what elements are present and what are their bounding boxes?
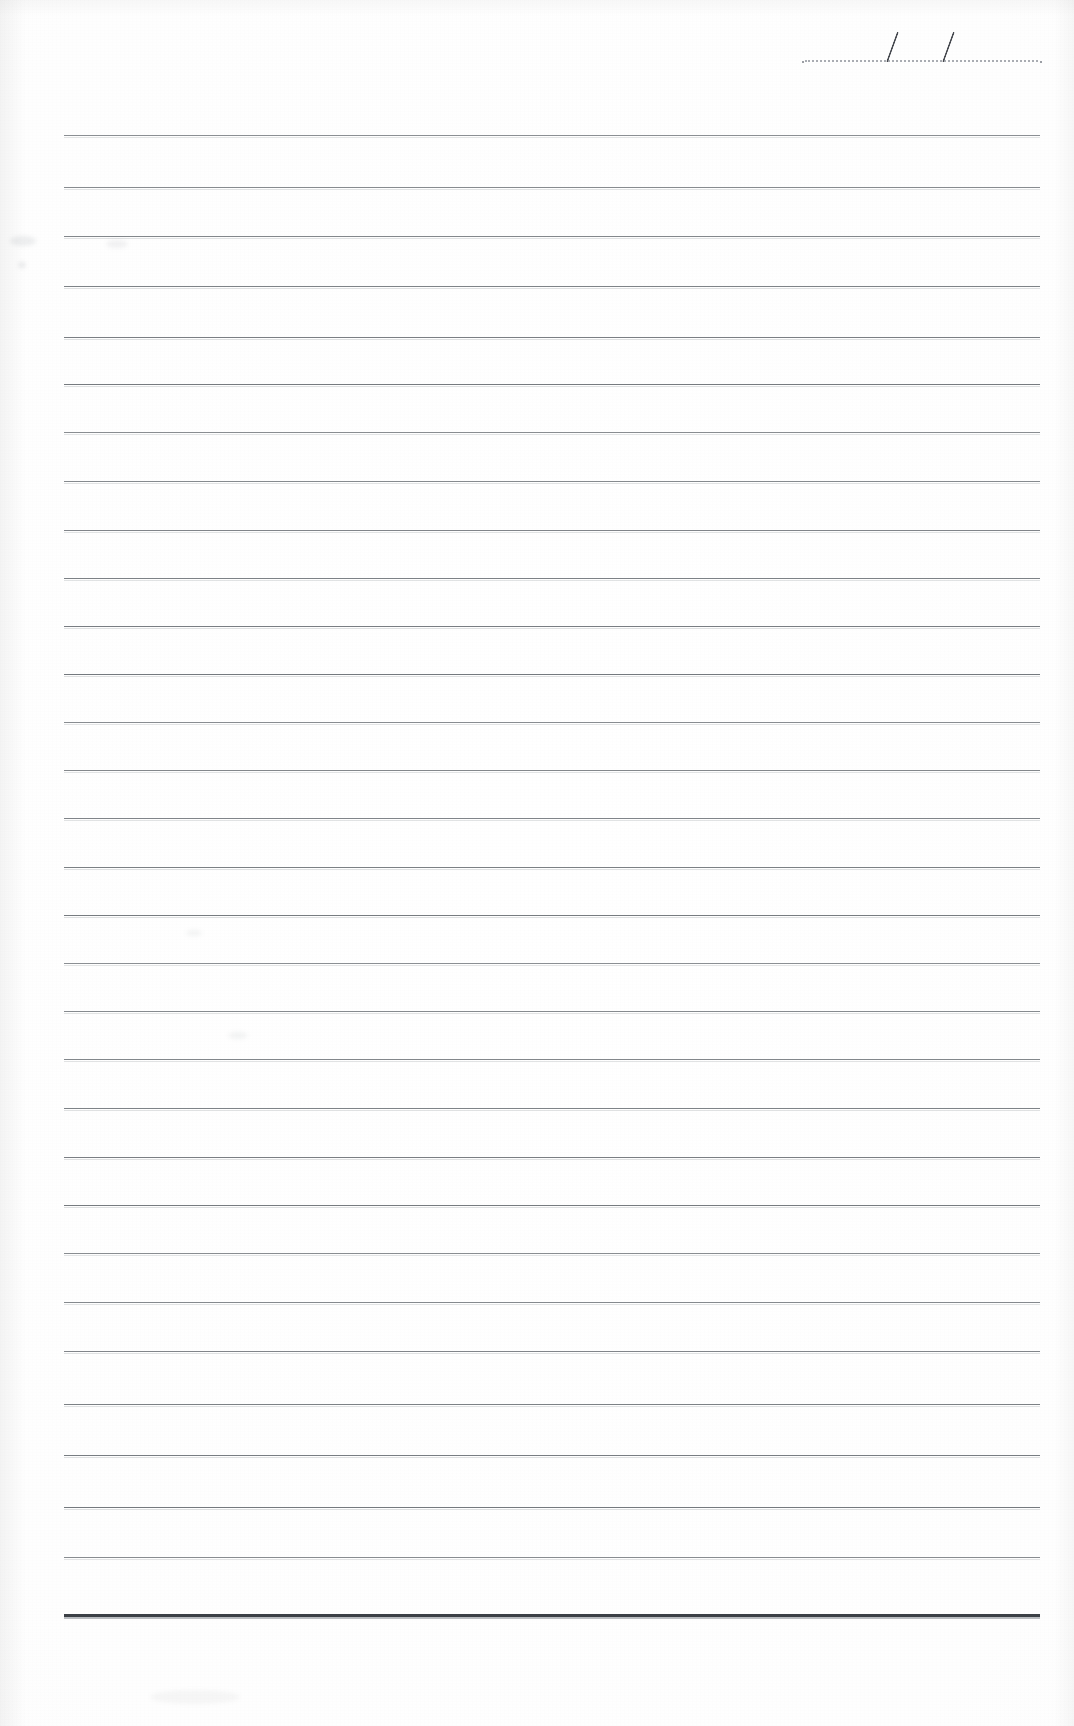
scan-smudge	[106, 240, 128, 248]
ruled-line	[64, 1351, 1040, 1352]
scan-smudge	[228, 1032, 248, 1039]
ruled-line	[64, 722, 1040, 723]
ruled-line	[64, 187, 1040, 188]
ruled-line	[64, 236, 1040, 237]
ruled-line	[64, 818, 1040, 819]
ruled-line	[64, 578, 1040, 579]
bottom-border-rule	[64, 1614, 1040, 1617]
ruled-line	[64, 1455, 1040, 1456]
ruled-line	[64, 770, 1040, 771]
ruled-line	[64, 1011, 1040, 1012]
ruled-line	[64, 1205, 1040, 1206]
ruled-line	[64, 867, 1040, 868]
ruled-line	[64, 1253, 1040, 1254]
ruled-line	[64, 135, 1040, 136]
ruled-line	[64, 1557, 1040, 1558]
ruled-line	[64, 1302, 1040, 1303]
ruled-line	[64, 674, 1040, 675]
ruled-line	[64, 1059, 1040, 1060]
scan-edge-shadow-right	[1054, 0, 1074, 1726]
paper-grain-overlay	[0, 0, 1074, 1726]
ruled-line	[64, 1507, 1040, 1508]
scan-smudge	[150, 1690, 240, 1704]
ruled-line	[64, 481, 1040, 482]
ruled-line	[64, 384, 1040, 385]
ruled-line	[64, 337, 1040, 338]
ruled-line	[64, 1404, 1040, 1405]
scan-smudge	[18, 262, 26, 268]
ruled-line	[64, 915, 1040, 916]
ruled-line	[64, 963, 1040, 964]
ruled-line	[64, 286, 1040, 287]
date-slash-separator-1	[886, 32, 899, 63]
ruled-line	[64, 1157, 1040, 1158]
scan-smudge	[186, 930, 202, 936]
date-line-end-dot-2	[1040, 61, 1042, 63]
ruled-line	[64, 626, 1040, 627]
date-field[interactable]	[0, 0, 1074, 90]
ruled-line	[64, 432, 1040, 433]
date-line-end-dot-1	[802, 61, 804, 63]
ruled-line	[64, 530, 1040, 531]
date-dotted-line[interactable]	[805, 60, 1038, 62]
scan-edge-shadow-left	[0, 0, 26, 1726]
scan-smudge	[10, 236, 36, 246]
ruled-line	[64, 1108, 1040, 1109]
notepad-page	[0, 0, 1074, 1726]
date-slash-separator-2	[942, 32, 955, 63]
